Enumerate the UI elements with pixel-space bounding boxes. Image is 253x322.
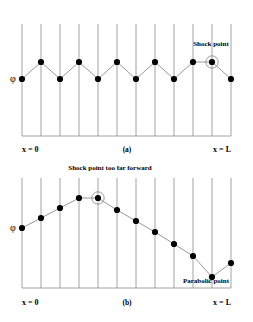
figure-svg: Shock point φ x = 0 (a) x = L: [0, 0, 253, 322]
data-point: [171, 241, 177, 247]
data-point: [190, 59, 196, 65]
panel-b-curve: [22, 198, 231, 277]
panel-b-parabolic-point-annotation: Parabolic point: [183, 277, 230, 285]
panel-b-x-start-label: x = 0: [22, 298, 39, 307]
data-point: [19, 76, 25, 82]
panel-a-caption: (a): [123, 145, 132, 154]
data-point: [76, 195, 82, 201]
data-point: [95, 76, 101, 82]
data-point: [76, 59, 82, 65]
data-point: [228, 76, 234, 82]
panel-b: Shock point too far forward Parabolic po…: [10, 164, 234, 307]
panel-b-x-end-label: x = L: [213, 298, 231, 307]
panel-a: Shock point φ x = 0 (a) x = L: [10, 24, 234, 154]
data-point: [38, 215, 44, 221]
panel-a-x-start-label: x = 0: [22, 145, 39, 154]
panel-a-x-end-label: x = L: [213, 145, 231, 154]
data-point: [133, 218, 139, 224]
data-point: [19, 225, 25, 231]
panel-b-caption: (b): [122, 298, 132, 307]
panel-b-gridlines: [22, 178, 231, 288]
data-point: [38, 59, 44, 65]
data-point: [171, 76, 177, 82]
data-point: [228, 260, 234, 266]
figure-container: Shock point φ x = 0 (a) x = L: [0, 0, 253, 322]
panel-b-y-axis-label: φ: [10, 222, 16, 233]
shock-point-marker: [209, 59, 215, 65]
panel-a-curve: [22, 62, 231, 79]
data-point: [133, 76, 139, 82]
data-point: [57, 205, 63, 211]
data-point: [114, 207, 120, 213]
panel-b-data-points: [19, 195, 234, 280]
shock-point-marker: [95, 195, 101, 201]
data-point: [57, 76, 63, 82]
data-point: [152, 229, 158, 235]
data-point: [190, 253, 196, 259]
data-point: [114, 59, 120, 65]
panel-b-shock-point-annotation: Shock point too far forward: [68, 164, 152, 172]
panel-a-y-axis-label: φ: [10, 73, 16, 84]
panel-a-shock-point-annotation: Shock point: [193, 40, 229, 48]
data-point: [152, 59, 158, 65]
